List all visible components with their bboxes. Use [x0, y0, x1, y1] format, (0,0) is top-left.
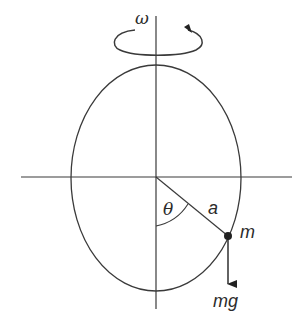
theta-label: θ [163, 199, 173, 219]
mg-label: mg [213, 291, 238, 311]
omega-label: ω [135, 8, 149, 28]
a-label: a [208, 198, 218, 218]
diagram-canvas: ω θ a m mg [0, 0, 307, 326]
m-label: m [240, 222, 255, 242]
rotation-arrow-icon [114, 24, 202, 55]
